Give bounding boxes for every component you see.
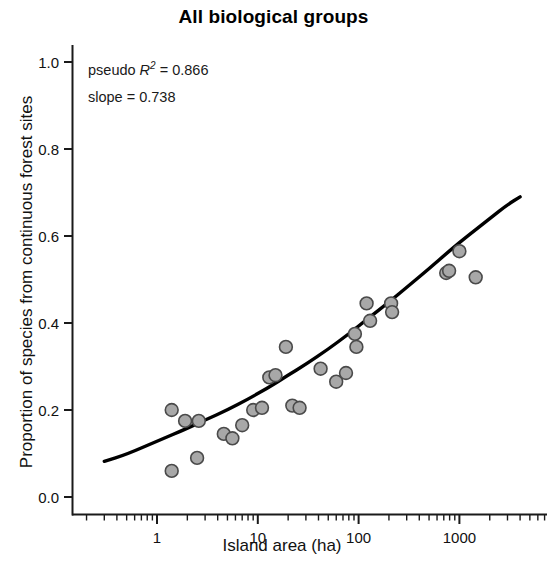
data-point (165, 404, 178, 417)
x-tick-label: 1000 (443, 529, 476, 546)
data-point (256, 401, 269, 414)
x-tick-label: 1 (153, 529, 161, 546)
data-point (293, 401, 306, 414)
data-point (179, 415, 192, 428)
data-point (386, 306, 399, 319)
y-tick-label: 0.0 (38, 489, 59, 506)
y-tick-label: 0.6 (38, 228, 59, 245)
y-axis-ticks: 0.00.20.40.60.81.0 (38, 54, 72, 506)
plot-area: 0.00.20.40.60.81.0 1101001000 (0, 0, 547, 564)
data-point (236, 419, 249, 432)
data-point (360, 297, 373, 310)
data-point (364, 314, 377, 327)
data-point (191, 452, 204, 465)
data-point (165, 465, 178, 478)
y-tick-label: 0.2 (38, 402, 59, 419)
data-point (314, 362, 327, 375)
y-tick-label: 0.4 (38, 315, 59, 332)
data-point (340, 367, 353, 380)
data-points (165, 245, 482, 477)
chart-figure: All biological groups pseudo R2 = 0.866 … (0, 0, 547, 564)
data-point (269, 369, 282, 382)
data-point (350, 341, 363, 354)
y-tick-label: 1.0 (38, 54, 59, 71)
y-tick-label: 0.8 (38, 141, 59, 158)
data-point (469, 271, 482, 284)
data-point (280, 341, 293, 354)
x-axis-ticks: 1101001000 (87, 515, 545, 546)
x-tick-label: 100 (346, 529, 371, 546)
x-tick-label: 10 (249, 529, 266, 546)
data-point (226, 432, 239, 445)
data-point (453, 245, 466, 258)
fit-curve (104, 197, 520, 461)
data-point (443, 264, 456, 277)
data-point (349, 328, 362, 341)
data-point (192, 415, 205, 428)
